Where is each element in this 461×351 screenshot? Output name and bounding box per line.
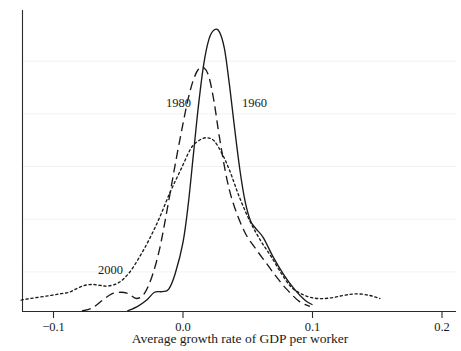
series-label-2000: 2000 <box>98 263 123 277</box>
chart-canvas: −0.10.00.10.2 198019602000 Average growt… <box>0 0 461 351</box>
series-label-1980: 1980 <box>166 96 191 110</box>
x-axis-ticks <box>54 312 443 319</box>
x-axis-title: Average growth rate of GDP per worker <box>132 331 349 346</box>
data-curves <box>21 29 380 311</box>
x-tick-label-3: 0.2 <box>434 320 450 334</box>
series-label-1960: 1960 <box>242 96 267 110</box>
x-tick-label-0: −0.1 <box>42 320 65 334</box>
density-plot-figure: −0.10.00.10.2 198019602000 Average growt… <box>0 0 461 351</box>
